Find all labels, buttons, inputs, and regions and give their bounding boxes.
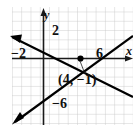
y-axis-label: y [44,9,49,21]
x-tick-label-6: 6 [96,47,103,61]
x-axis-label: x [126,45,132,57]
coordinate-graph-figure: y x 2 −2 6 −6 (4, −1) [0,0,133,125]
x-tick-label-neg2: −2 [11,47,26,61]
intersection-point [77,55,83,61]
y-tick-label-neg6: −6 [52,97,67,111]
y-tick-label-2: 2 [52,24,59,38]
intersection-point-label: (4, −1) [58,73,96,87]
